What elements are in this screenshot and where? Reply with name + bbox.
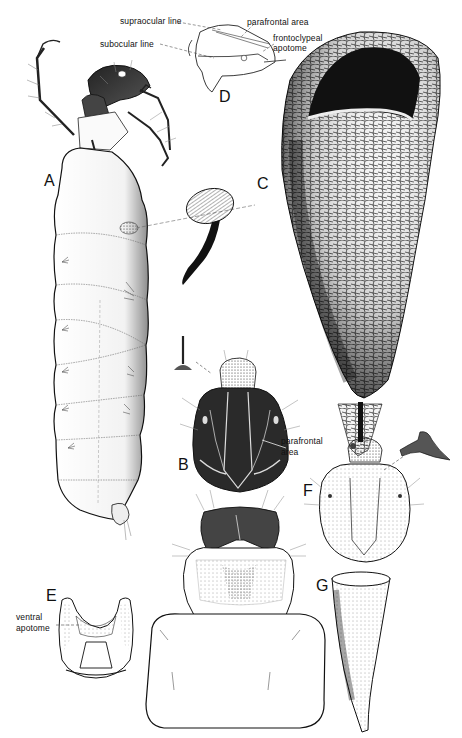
panel-label-g: G xyxy=(316,577,328,595)
panel-label-f: F xyxy=(303,482,313,500)
panel-label-c: C xyxy=(257,175,269,193)
panel-b-head-dorsal xyxy=(174,336,300,492)
label-subocular-line: subocular line xyxy=(100,39,154,49)
panel-d-head-outline xyxy=(160,22,286,92)
panel-label-b: B xyxy=(178,456,189,474)
panel-label-e: E xyxy=(46,587,57,605)
label-ventral-apotome: apotome xyxy=(16,623,50,633)
illustration-plate xyxy=(0,0,462,738)
panel-label-a: A xyxy=(44,172,55,190)
panel-f-head-dorsal xyxy=(304,432,450,562)
label-apotome-d: apotome xyxy=(273,43,307,53)
gill-detail-inset xyxy=(136,183,255,285)
panel-g-case xyxy=(332,572,390,732)
thorax-dorsal-view xyxy=(146,490,325,728)
label-parafrontal-b: parafrontal xyxy=(281,436,323,446)
panel-label-d: D xyxy=(219,88,231,106)
label-area-b: area xyxy=(281,447,298,457)
label-frontoclypeal: frontoclypeal xyxy=(273,33,323,43)
label-ventral: ventral xyxy=(16,612,42,622)
label-supraocular-line: supraocular line xyxy=(120,16,182,26)
label-parafrontal-area-d: parafrontal area xyxy=(247,17,309,27)
panel-e-head-ventral xyxy=(56,598,133,678)
panel-a-larva xyxy=(27,40,176,540)
panel-c-case xyxy=(282,32,441,456)
